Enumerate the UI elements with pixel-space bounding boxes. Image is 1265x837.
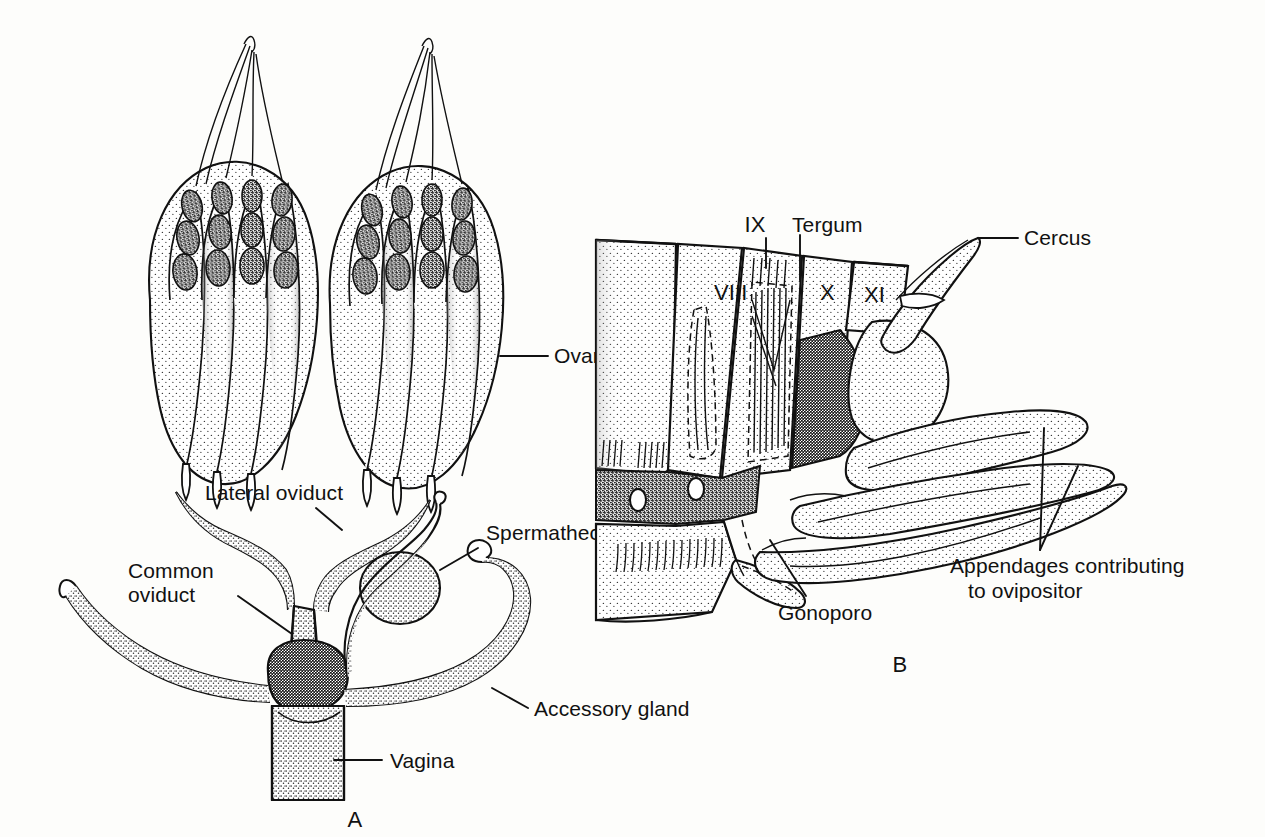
genital-chamber [268,640,348,712]
spiracle-posterior [688,478,704,500]
vagina [272,706,344,800]
panel-b-caption: B [893,652,908,677]
label-segment-xi: XI [864,282,885,307]
label-cercus: Cercus [1024,226,1091,249]
label-accessory-gland: Accessory gland [534,697,690,720]
label-tergum: Tergum [792,213,863,236]
label-lateral-oviduct: Lateral oviduct [205,481,343,504]
label-spermatheca: Spermatheca [486,521,612,544]
label-appendages-line2: to ovipositor [968,579,1083,602]
label-gonoporo: Gonoporo [778,601,872,624]
label-segment-x: X [820,280,835,305]
label-segment-viii: VIII [714,280,747,305]
label-common-oviduct-line2: oviduct [128,583,195,606]
anatomical-figure: Ovary Lateral oviduct Common oviduct Spe… [0,0,1265,837]
segment-vii [596,240,678,476]
label-common-oviduct-line1: Common [128,559,214,582]
label-appendages-line1: Appendages contributing [950,554,1185,577]
panel-a-caption: A [348,807,363,832]
spiracle-anterior [630,489,646,511]
label-vagina: Vagina [390,749,455,772]
sternum [596,522,736,622]
label-segment-ix: IX [745,212,766,237]
